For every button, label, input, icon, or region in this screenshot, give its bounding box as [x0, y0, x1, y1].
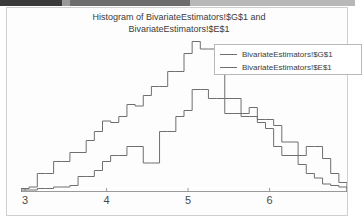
chart-legend: BivariateEstimators!$G$1 BivariateEstima… — [214, 44, 362, 75]
window-chrome-strip — [0, 0, 355, 6]
histogram-step-series-e — [21, 90, 347, 192]
legend-line-swatch-e — [220, 67, 237, 68]
x-axis-labels: 3456 — [7, 194, 349, 210]
legend-line-swatch-g — [220, 54, 237, 55]
x-axis-tick-label-4: 4 — [104, 194, 110, 206]
legend-label-e: BivariateEstimators!$E$1 — [242, 63, 332, 72]
chart-title: Histogram of BivariateEstimators!$G$1 an… — [29, 11, 329, 35]
legend-label-g: BivariateEstimators!$G$1 — [242, 50, 333, 59]
x-axis-tick-label-6: 6 — [267, 194, 273, 206]
legend-item-g: BivariateEstimators!$G$1 — [220, 48, 361, 60]
legend-item-e: BivariateEstimators!$E$1 — [220, 61, 361, 73]
x-axis-tick-label-3: 3 — [22, 194, 28, 206]
chart-figure-frame: Histogram of BivariateEstimators!$G$1 an… — [6, 7, 348, 216]
x-axis-tick-label-5: 5 — [185, 194, 191, 206]
